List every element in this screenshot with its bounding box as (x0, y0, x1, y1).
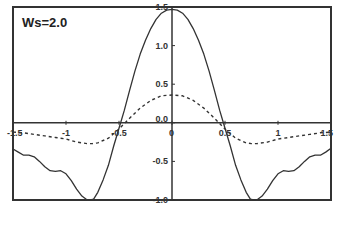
y-tick-label: 1.5 (155, 2, 168, 12)
y-tick-label: -0.5 (152, 156, 168, 166)
x-tick-label: 1 (275, 128, 280, 138)
x-tick-label: 1.5 (320, 128, 333, 138)
y-tick-label: 1.0 (155, 41, 168, 51)
tick-labels: -1.5-1-0.500.511.51.51.00.50.0-0.5-1.0 (7, 2, 333, 205)
x-tick-label: -1.5 (7, 128, 23, 138)
x-tick-label: 0.5 (219, 128, 232, 138)
panel-annotation: Ws=2.0 (22, 15, 67, 30)
chart: -1.5-1-0.500.511.51.51.00.50.0-0.5-1.0 W… (0, 0, 340, 229)
y-tick-label: 0.0 (155, 114, 168, 124)
y-tick-label: 0.5 (155, 79, 168, 89)
x-tick-label: 0 (169, 128, 174, 138)
x-tick-label: -1 (62, 128, 70, 138)
x-tick-label: -0.5 (111, 128, 127, 138)
y-tick-label: -1.0 (152, 195, 168, 205)
